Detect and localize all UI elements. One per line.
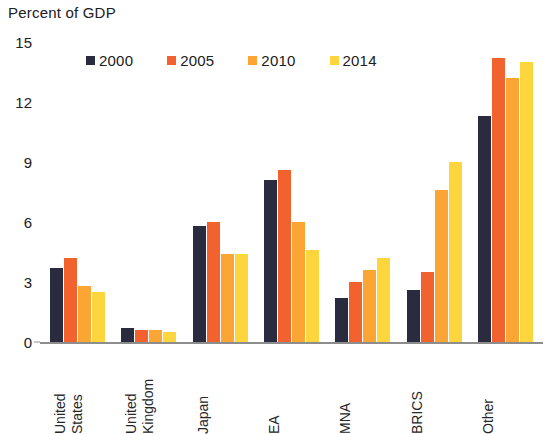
bar[interactable] — [193, 226, 206, 342]
bar-group — [407, 42, 463, 342]
x-tick-label-line: EA — [266, 415, 283, 434]
bar[interactable] — [207, 222, 220, 342]
x-tick-label-japan: Japan — [195, 346, 235, 434]
bar[interactable] — [78, 286, 91, 342]
plot-area — [40, 42, 540, 342]
bar[interactable] — [50, 268, 63, 342]
y-tick-label: 0 — [24, 334, 32, 351]
bar[interactable] — [478, 116, 491, 342]
bar[interactable] — [435, 190, 448, 342]
bar[interactable] — [407, 290, 420, 342]
x-tick-label-line: Japan — [195, 396, 212, 434]
bar[interactable] — [121, 328, 134, 342]
bar[interactable] — [377, 258, 390, 342]
bar[interactable] — [163, 332, 176, 342]
x-tick-label-text: Other — [480, 346, 520, 434]
y-tick-label: 6 — [24, 214, 32, 231]
x-tick-label-line: Other — [480, 399, 497, 434]
bar[interactable] — [149, 330, 162, 342]
bar[interactable] — [520, 62, 533, 342]
bar-group — [50, 42, 106, 342]
bar[interactable] — [235, 254, 248, 342]
bar[interactable] — [64, 258, 77, 342]
bar-group — [478, 42, 534, 342]
bar[interactable] — [363, 270, 376, 342]
y-axis: 03691215 — [0, 0, 40, 434]
x-tick-label-united-states: UnitedStates — [52, 346, 92, 434]
x-tick-label-mna: MNA — [337, 346, 377, 434]
bar-group — [264, 42, 320, 342]
bar[interactable] — [335, 298, 348, 342]
x-tick-label-united-kingdom: UnitedKingdom — [123, 346, 163, 434]
y-tick-label: 9 — [24, 154, 32, 171]
bar-group — [335, 42, 391, 342]
x-tick-label-line: United — [123, 394, 140, 434]
x-tick-label-line: Kingdom — [140, 379, 157, 434]
x-tick-label-text: MNA — [337, 346, 377, 434]
bar-group — [121, 42, 177, 342]
bar[interactable] — [306, 250, 319, 342]
bar-group — [193, 42, 249, 342]
x-axis-baseline — [40, 342, 543, 344]
y-tick-label: 12 — [15, 94, 32, 111]
x-tick-label-text: UnitedKingdom — [123, 346, 163, 434]
x-tick-label-other: Other — [480, 346, 520, 434]
bar[interactable] — [292, 222, 305, 342]
bar[interactable] — [492, 58, 505, 342]
bar[interactable] — [449, 162, 462, 342]
x-tick-label-text: UnitedStates — [52, 346, 92, 434]
x-tick-label-line: MNA — [337, 403, 354, 434]
bar[interactable] — [264, 180, 277, 342]
x-tick-label-text: EA — [266, 346, 306, 434]
x-tick-label-line: United — [52, 394, 69, 434]
x-tick-label-ea: EA — [266, 346, 306, 434]
x-tick-label-brics: BRICS — [409, 346, 449, 434]
bar[interactable] — [278, 170, 291, 342]
y-tick-label: 15 — [15, 34, 32, 51]
y-tick-label: 3 — [24, 274, 32, 291]
x-tick-label-text: Japan — [195, 346, 235, 434]
bar-chart: Percent of GDP 2000200520102014 03691215… — [0, 0, 547, 434]
bar[interactable] — [349, 282, 362, 342]
bar[interactable] — [506, 78, 519, 342]
x-tick-label-line: BRICS — [409, 391, 426, 434]
bar[interactable] — [221, 254, 234, 342]
bar[interactable] — [421, 272, 434, 342]
x-axis-labels: UnitedStatesUnitedKingdomJapanEAMNABRICS… — [40, 346, 543, 434]
x-tick-label-text: BRICS — [409, 346, 449, 434]
x-tick-label-line: States — [69, 394, 86, 434]
bar[interactable] — [92, 292, 105, 342]
bar[interactable] — [135, 330, 148, 342]
